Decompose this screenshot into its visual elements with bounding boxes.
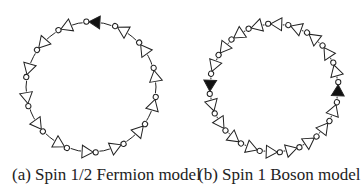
spin-chain-figure <box>0 0 364 192</box>
inverter-icon <box>147 63 163 83</box>
inverter-icon <box>264 17 283 31</box>
inverter-icon <box>265 145 284 159</box>
inverter-icon <box>19 91 35 111</box>
inverter-icon <box>81 145 100 159</box>
inverter-icon <box>53 19 75 38</box>
bubble-icon <box>151 65 157 71</box>
caption-boson-model: (b) Spin 1 Boson model <box>198 165 360 185</box>
inverter-icon <box>204 98 222 119</box>
inverter-icon <box>51 135 73 155</box>
inverter-icon <box>283 18 305 36</box>
inverter-icon <box>109 19 131 39</box>
ring-wire <box>210 24 338 152</box>
bubble-icon <box>265 21 270 26</box>
inverter-icon <box>204 58 222 80</box>
inverter-icon <box>326 97 344 119</box>
filled-inverter-icon <box>203 79 217 98</box>
caption-fermion-model: (a) Spin 1/2 Fermion model <box>12 165 201 185</box>
inverter-icon <box>19 61 36 82</box>
bubble-icon <box>336 79 341 84</box>
filled-inverter-icon <box>82 15 101 29</box>
fermion-ring-diagram <box>19 15 163 159</box>
inverter-icon <box>284 140 305 158</box>
bubble-icon <box>84 19 89 24</box>
filled-inverter-icon <box>331 78 345 97</box>
bubble-icon <box>277 150 282 155</box>
inverter-icon <box>326 57 344 78</box>
bubble-icon <box>93 150 98 155</box>
bubble-icon <box>207 91 212 96</box>
inverter-icon <box>146 92 163 113</box>
bubble-icon <box>25 103 31 109</box>
inverter-icon <box>244 140 266 158</box>
boson-ring-diagram <box>203 17 345 159</box>
inverter-icon <box>243 18 264 36</box>
inverter-icon <box>108 136 130 155</box>
